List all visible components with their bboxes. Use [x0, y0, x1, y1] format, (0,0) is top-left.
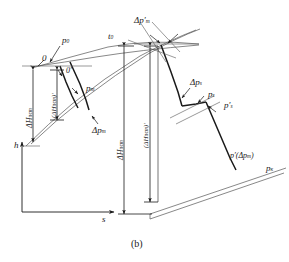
label-ps: ps [208, 90, 215, 99]
label-p0: p0 [62, 36, 69, 45]
dim-label-delta-H-t-pc-prime-inner-right: (ΔHпст)′ [143, 123, 150, 148]
label-delta-pt: Δpт [92, 126, 106, 135]
dim-label-delta-H-t-pc-outer-left: ΔHпст [26, 108, 34, 128]
label-ps-prime: p′s [224, 101, 233, 110]
arrow-delta-pt-prime-right [168, 34, 178, 43]
arrow-delta-pt [92, 116, 98, 124]
label-axis-h: h [14, 141, 19, 150]
curve-p0-isobar [31, 45, 199, 67]
arrow-delta-ps [182, 88, 190, 98]
curve-p-prime-dpt-isobar [150, 173, 284, 219]
label-pk: pк [266, 164, 273, 173]
dim-label-delta-H-t-pc-outer-right: ΔHпст [117, 140, 125, 160]
arrow-delta-pt-prime-left [150, 35, 160, 43]
arrow-p0 [50, 46, 60, 62]
dim-label-delta-H-t-pc-prime-inner-left: (ΔHпст)′ [51, 93, 58, 118]
isobar-curves-left [26, 29, 200, 146]
expansion-line-right-upper [161, 45, 182, 106]
label-t0: t0 [108, 32, 113, 41]
arrow-pt [72, 88, 78, 94]
axes [22, 142, 114, 212]
figure-caption: (b) [131, 238, 143, 249]
label-axis-s: s [102, 215, 106, 224]
label-delta-pt-prime: Δp′т [134, 16, 150, 25]
label-delta-ps: Δps [190, 78, 202, 87]
label-point-0-prime: 0′ [66, 67, 72, 75]
figure-hs-diagram: 0 0′ p0 t0 pт Δpт Δp′т Δps ps p′s p′(Δpт… [0, 0, 289, 262]
condenser-isobar-lines [150, 168, 286, 219]
label-p-prime-delta-pt: p′(Δpт) [230, 152, 254, 160]
label-pt: pт [86, 84, 94, 93]
reheat-segment [182, 102, 206, 106]
label-point-0: 0 [42, 54, 47, 63]
curve-t0-isotherm [32, 42, 199, 68]
curve-pk-isobar [150, 168, 286, 214]
